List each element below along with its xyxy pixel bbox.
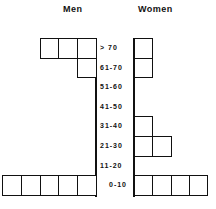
men-unit-box (40, 175, 60, 196)
age-label: 61-70 (100, 64, 123, 71)
men-unit-box (58, 175, 78, 196)
age-label: 41-50 (100, 103, 123, 110)
women-unit-box (171, 175, 190, 196)
men-unit-box (40, 38, 60, 59)
women-unit-box (152, 175, 171, 196)
age-label: 31-40 (100, 122, 123, 129)
men-unit-box (21, 175, 41, 196)
age-label: 11-20 (100, 162, 123, 169)
men-unit-box (77, 58, 97, 79)
women-unit-box (152, 136, 171, 157)
men-unit-box (77, 175, 97, 196)
men-unit-box (2, 175, 22, 196)
women-unit-box (189, 175, 208, 196)
women-unit-box (134, 116, 153, 137)
men-unit-box (58, 38, 78, 59)
women-unit-box (134, 136, 153, 157)
men-header: Men (63, 4, 83, 14)
women-unit-box (134, 175, 153, 196)
women-header: Women (138, 4, 173, 14)
age-label: 21-30 (100, 142, 123, 149)
age-label: 51-60 (100, 83, 123, 90)
women-unit-box (134, 38, 153, 59)
men-unit-box (77, 38, 97, 59)
women-unit-box (134, 58, 153, 79)
age-label: 0-10 (109, 181, 127, 188)
age-label: > 70 (100, 44, 118, 51)
